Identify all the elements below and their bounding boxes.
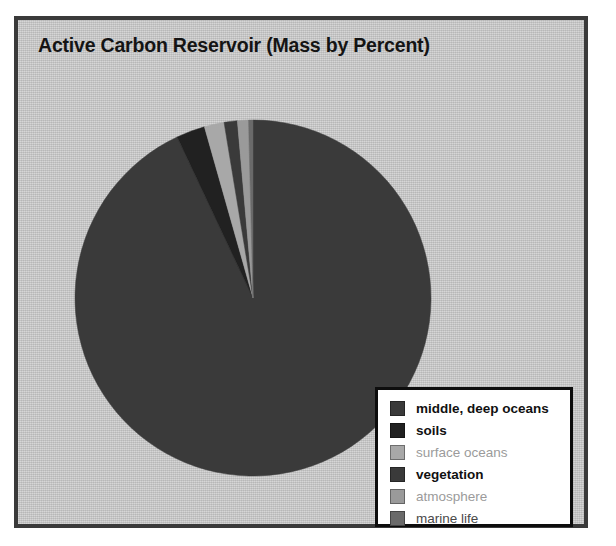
- legend-item: middle, deep oceans: [378, 397, 570, 419]
- legend-swatch-icon: [390, 423, 405, 438]
- legend-item-label: surface oceans: [416, 445, 508, 460]
- chart-figure: Active Carbon Reservoir (Mass by Percent…: [14, 16, 588, 528]
- legend-item: marine life: [378, 507, 570, 529]
- chart-legend: middle, deep oceanssoilssurface oceansve…: [375, 387, 573, 527]
- legend-item-label: middle, deep oceans: [416, 401, 549, 416]
- legend-item-label: atmosphere: [416, 489, 487, 504]
- legend-swatch-icon: [390, 467, 405, 482]
- legend-swatch-icon: [390, 401, 405, 416]
- legend-item-label: soils: [416, 423, 447, 438]
- legend-swatch-icon: [390, 445, 405, 460]
- legend-item: atmosphere: [378, 485, 570, 507]
- legend-item: vegetation: [378, 463, 570, 485]
- legend-swatch-icon: [390, 511, 405, 526]
- legend-items: middle, deep oceanssoilssurface oceansve…: [378, 397, 570, 529]
- legend-item-label: marine life: [416, 511, 478, 526]
- legend-swatch-icon: [390, 489, 405, 504]
- legend-item-label: vegetation: [416, 467, 484, 482]
- legend-item: soils: [378, 419, 570, 441]
- legend-item: surface oceans: [378, 441, 570, 463]
